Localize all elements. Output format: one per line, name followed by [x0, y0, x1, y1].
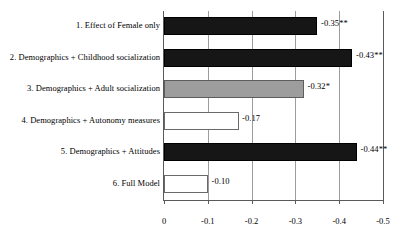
category-label-slot: 6. Full Model: [0, 169, 163, 201]
bar[interactable]: [164, 175, 208, 193]
category-label: 5. Demographics + Attitudes: [0, 146, 160, 157]
category-label: 1. Effect of Female only: [0, 20, 160, 31]
x-tick-label: -0.2: [245, 216, 258, 227]
bar-value-label: -0.44**: [361, 144, 388, 155]
bar-row: -0.43**: [164, 43, 383, 75]
x-tick-label: -0.4: [332, 216, 345, 227]
bar[interactable]: [164, 17, 317, 35]
tick-mark: [164, 200, 165, 204]
bar-value-label: -0.32*: [308, 81, 331, 92]
tick-mark: [383, 200, 384, 204]
x-tick-label: -0.5: [376, 216, 389, 227]
bar[interactable]: [164, 143, 357, 161]
tick-mark: [295, 200, 296, 204]
tick-mark: [252, 200, 253, 204]
category-label: 4. Demographics + Autonomy measures: [0, 115, 160, 126]
category-label-slot: 5. Demographics + Attitudes: [0, 137, 163, 169]
plot-area: -0.35** -0.43** -0.32* -0.17 -0.44** -0.…: [163, 11, 384, 201]
x-tick-label: -0.1: [201, 216, 214, 227]
category-label: 3. Demographics + Adult socialization: [0, 83, 160, 94]
bar-row: -0.17: [164, 106, 383, 138]
bar[interactable]: [164, 112, 239, 130]
bar-row: -0.44**: [164, 137, 383, 169]
bar-value-label: -0.35**: [321, 18, 348, 29]
x-tick-label: 0: [162, 216, 166, 227]
category-label-slot: 3. Demographics + Adult socialization: [0, 74, 163, 106]
category-label-slot: 1. Effect of Female only: [0, 11, 163, 43]
tick-mark: [339, 200, 340, 204]
x-tick-label: -0.3: [289, 216, 302, 227]
bar-value-label: -0.17: [242, 113, 260, 124]
bar-value-label: -0.43**: [356, 50, 383, 61]
tick-mark: [208, 200, 209, 204]
category-label: 2. Demographics + Childhood socializatio…: [0, 52, 160, 63]
bar[interactable]: [164, 80, 304, 98]
bar-row: -0.35**: [164, 11, 383, 43]
bar-row: -0.32*: [164, 74, 383, 106]
category-label-slot: 4. Demographics + Autonomy measures: [0, 106, 163, 138]
bar-value-label: -0.10: [212, 176, 230, 187]
category-label-slot: 2. Demographics + Childhood socializatio…: [0, 43, 163, 75]
bar-chart-figure: 1. Effect of Female only 2. Demographics…: [0, 0, 402, 232]
bar-row: -0.10: [164, 169, 383, 201]
category-label: 6. Full Model: [0, 178, 160, 189]
bar[interactable]: [164, 49, 352, 67]
